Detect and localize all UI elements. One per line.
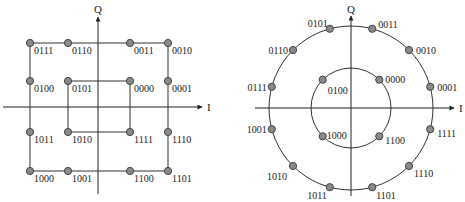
constellation-point bbox=[319, 76, 326, 83]
point-label: 1111 bbox=[134, 134, 153, 145]
constellation-point bbox=[26, 77, 33, 84]
constellation-point bbox=[26, 167, 33, 174]
constellation-point bbox=[126, 39, 133, 46]
constellation-point bbox=[126, 128, 133, 135]
constellation-point bbox=[326, 184, 333, 191]
point-label: 1101 bbox=[172, 173, 192, 184]
point-label: 0000 bbox=[134, 83, 154, 94]
point-label: 0111 bbox=[34, 45, 53, 56]
constellation-point bbox=[26, 39, 33, 46]
point-label: 1011 bbox=[307, 190, 327, 201]
q-axis-label: Q bbox=[347, 3, 355, 15]
point-label: 0101 bbox=[72, 83, 92, 94]
point-label: 0100 bbox=[34, 83, 54, 94]
point-label: 1101 bbox=[376, 190, 396, 201]
point-label: 1100 bbox=[134, 173, 154, 184]
point-label: 0001 bbox=[437, 82, 457, 93]
constellation-point bbox=[268, 126, 275, 133]
q-axis-label: Q bbox=[94, 3, 102, 15]
point-label: 0001 bbox=[172, 83, 192, 94]
point-label: 0110 bbox=[268, 45, 288, 56]
constellation-diagrams: I Q 011101100011001001000101000000011011… bbox=[0, 0, 465, 202]
point-label: 0011 bbox=[134, 45, 154, 56]
point-label: 1010 bbox=[267, 171, 287, 182]
point-label: 0110 bbox=[72, 45, 92, 56]
square-constellation: I Q 011101100011001001000101000000011011… bbox=[3, 3, 211, 194]
point-label: 0100 bbox=[328, 85, 348, 96]
constellation-point bbox=[126, 167, 133, 174]
point-label: 1001 bbox=[247, 124, 267, 135]
constellation-point bbox=[164, 77, 171, 84]
constellation-point bbox=[427, 83, 434, 90]
constellation-point bbox=[164, 128, 171, 135]
constellation-point bbox=[427, 126, 434, 133]
constellation-point bbox=[164, 39, 171, 46]
point-label: 1010 bbox=[72, 134, 92, 145]
point-label: 0000 bbox=[385, 74, 405, 85]
constellation-point bbox=[289, 162, 296, 169]
constellation-point bbox=[64, 39, 71, 46]
point-label: 1011 bbox=[34, 134, 54, 145]
constellation-point bbox=[64, 77, 71, 84]
point-label: 0011 bbox=[378, 19, 398, 30]
constellation-point bbox=[289, 46, 296, 53]
constellation-point bbox=[369, 184, 376, 191]
point-label: 1110 bbox=[414, 168, 433, 179]
constellation-point bbox=[64, 128, 71, 135]
point-label: 1100 bbox=[385, 135, 405, 146]
point-label: 1000 bbox=[34, 173, 54, 184]
constellation-point bbox=[126, 77, 133, 84]
point-label: 0101 bbox=[308, 18, 328, 29]
constellation-point bbox=[164, 167, 171, 174]
i-axis-label: I bbox=[459, 102, 463, 114]
circular-constellation: I Q 000001001000110000010010001101010110… bbox=[247, 3, 463, 201]
point-label: 1001 bbox=[72, 173, 92, 184]
constellation-point bbox=[26, 128, 33, 135]
constellation-point bbox=[405, 162, 412, 169]
point-label: 1110 bbox=[172, 134, 191, 145]
constellation-point bbox=[369, 25, 376, 32]
constellation-point bbox=[319, 133, 326, 140]
point-label: 0010 bbox=[172, 45, 192, 56]
constellation-point bbox=[64, 167, 71, 174]
i-axis-label: I bbox=[207, 101, 211, 113]
constellation-point bbox=[268, 83, 275, 90]
point-label: 0010 bbox=[416, 45, 436, 56]
point-label: 1000 bbox=[327, 130, 347, 141]
constellation-point bbox=[376, 133, 383, 140]
point-label: 0111 bbox=[248, 82, 267, 93]
constellation-point bbox=[405, 46, 412, 53]
constellation-point bbox=[376, 76, 383, 83]
point-label: 1111 bbox=[437, 128, 456, 139]
